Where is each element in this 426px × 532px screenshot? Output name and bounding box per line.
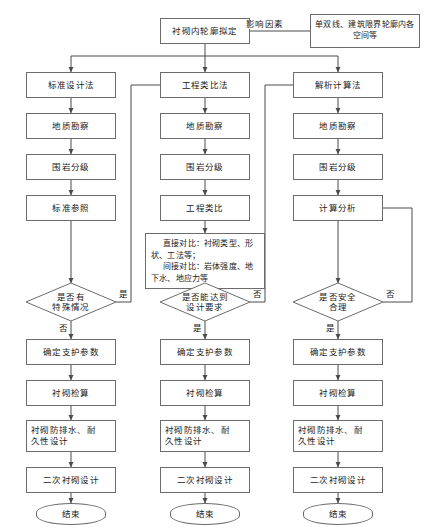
node-right-waterproof-durability[interactable]: 衬砌防排水、耐 久性设计: [293, 420, 383, 452]
node-analytical-calculation-method[interactable]: 解析计算法: [293, 72, 383, 98]
node-middle-waterproof-line2: 久性设计: [165, 436, 202, 446]
node-right-lining-check[interactable]: 衬砌检算: [293, 380, 383, 406]
node-left-geological-survey[interactable]: 地质勘察: [26, 113, 116, 139]
node-middle-waterproof-durability[interactable]: 衬砌防排水、耐 久性设计: [160, 420, 250, 452]
node-influence-source[interactable]: 单双线、建筑限界轮廓内各空间等: [310, 14, 420, 48]
edge-label-right-yes: 是: [325, 324, 336, 333]
edge-label-left-yes: 是: [118, 290, 129, 299]
flowchart-canvas: 衬砌内轮廓拟定 影响因素 单双线、建筑限界轮廓内各空间等 标准设计法 地质勘察 …: [0, 0, 426, 532]
node-lining-inner-contour[interactable]: 衬砌内轮廓拟定: [160, 18, 250, 44]
edge-label-right-no: 否: [385, 290, 396, 299]
node-left-determine-support-params[interactable]: 确定支护参数: [26, 339, 116, 365]
decision-right-safe-reasonable[interactable]: 是否安全 合理: [293, 283, 383, 321]
node-middle-end[interactable]: 结束: [170, 503, 240, 525]
node-middle-determine-support-params[interactable]: 确定支护参数: [160, 339, 250, 365]
node-right-calculation-analysis[interactable]: 计算分析: [293, 195, 383, 221]
node-right-waterproof-line1: 衬砌防排水、耐: [298, 425, 363, 435]
decision-middle-meets-design[interactable]: 是否能达到 设计要求: [160, 283, 250, 321]
node-middle-lining-check[interactable]: 衬砌检算: [160, 380, 250, 406]
node-engineering-analogy-method[interactable]: 工程类比法: [160, 72, 250, 98]
comparison-direct: 直接对比：衬砌类型、形: [151, 238, 259, 250]
node-right-secondary-lining-design[interactable]: 二次衬砌设计: [293, 467, 383, 493]
edge-label-left-no: 否: [58, 324, 69, 333]
edge-label-middle-no: 否: [252, 290, 263, 299]
comparison-indirect: 间接对比：岩体强度、地: [151, 261, 259, 273]
node-left-end[interactable]: 结束: [36, 503, 106, 525]
node-left-secondary-lining-design[interactable]: 二次衬砌设计: [26, 467, 116, 493]
node-middle-waterproof-line1: 衬砌防排水、耐: [165, 425, 230, 435]
node-left-standard-reference[interactable]: 标准参照: [26, 195, 116, 221]
node-standard-design-method[interactable]: 标准设计法: [26, 72, 116, 98]
node-left-waterproof-line1: 衬砌防排水、耐: [31, 425, 96, 435]
node-right-rock-mass-grading[interactable]: 围岩分级: [293, 154, 383, 180]
node-left-waterproof-line2: 久性设计: [31, 436, 68, 446]
node-right-geological-survey[interactable]: 地质勘察: [293, 113, 383, 139]
node-right-waterproof-line2: 久性设计: [298, 436, 335, 446]
node-middle-geological-survey[interactable]: 地质勘察: [160, 113, 250, 139]
node-middle-secondary-lining-design[interactable]: 二次衬砌设计: [160, 467, 250, 493]
node-middle-rock-mass-grading[interactable]: 围岩分级: [160, 154, 250, 180]
edge-label-middle-yes: 是: [192, 324, 203, 333]
node-middle-comparison-detail: 直接对比：衬砌类型、形 状、工法等； 间接对比：岩体强度、地 下水、地应力等: [145, 233, 265, 289]
node-middle-engineering-analogy[interactable]: 工程类比: [160, 195, 250, 221]
comparison-direct-cont: 状、工法等；: [151, 250, 259, 262]
node-right-determine-support-params[interactable]: 确定支护参数: [293, 339, 383, 365]
node-left-lining-check[interactable]: 衬砌检算: [26, 380, 116, 406]
decision-left-special-condition[interactable]: 是否有 特殊情况: [26, 283, 116, 321]
node-left-waterproof-durability[interactable]: 衬砌防排水、耐 久性设计: [26, 420, 116, 452]
node-right-end[interactable]: 结束: [303, 503, 373, 525]
edge-label-influence-factors: 影响因素: [245, 20, 284, 29]
node-left-rock-mass-grading[interactable]: 围岩分级: [26, 154, 116, 180]
